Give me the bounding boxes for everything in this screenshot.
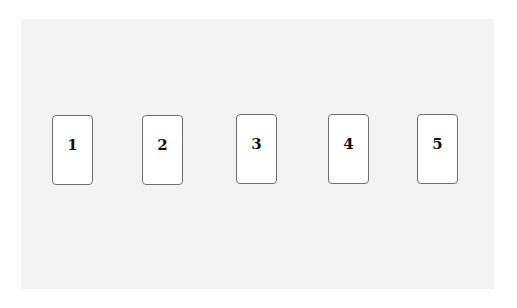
card-4[interactable]: 4 xyxy=(328,114,369,184)
card-number: 3 xyxy=(237,135,276,153)
card-2[interactable]: 2 xyxy=(142,115,183,185)
card-number: 1 xyxy=(53,136,92,154)
card-number: 2 xyxy=(143,136,182,154)
card-number: 5 xyxy=(418,135,457,153)
card-5[interactable]: 5 xyxy=(417,114,458,184)
card-3[interactable]: 3 xyxy=(236,114,277,184)
card-1[interactable]: 1 xyxy=(52,115,93,185)
card-number: 4 xyxy=(329,135,368,153)
